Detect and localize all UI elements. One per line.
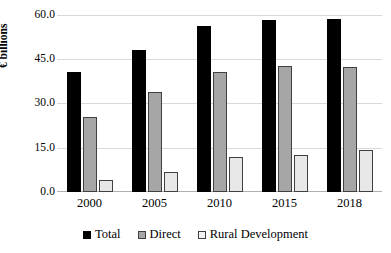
y-axis-tick-60: 60.0 <box>3 9 55 21</box>
bar-rural-2010 <box>229 157 243 192</box>
bar-total-2015 <box>262 20 276 192</box>
chart-legend: Total Direct Rural Development <box>0 227 391 242</box>
legend-item-direct: Direct <box>138 227 181 242</box>
x-axis-tick-2018: 2018 <box>317 196 382 210</box>
y-axis-tick-45: 45.0 <box>3 53 55 65</box>
bar-groups <box>57 15 382 192</box>
bar-rural-2015 <box>294 155 308 192</box>
bar-direct-2005 <box>148 92 162 192</box>
legend-swatch-rural-icon <box>198 231 206 239</box>
legend-label-total: Total <box>95 227 121 242</box>
x-axis-tick-2000: 2000 <box>57 196 122 210</box>
bar-direct-2018 <box>343 67 357 192</box>
bar-direct-2010 <box>213 72 227 192</box>
bar-rural-2000 <box>99 180 113 192</box>
y-axis-tick-30: 30.0 <box>3 97 55 109</box>
legend-item-total: Total <box>83 227 121 242</box>
bar-group-2005 <box>122 15 187 192</box>
legend-label-direct: Direct <box>150 227 181 242</box>
x-axis-tick-2010: 2010 <box>187 196 252 210</box>
x-axis-labels: 2000 2005 2010 2015 2018 <box>57 196 382 210</box>
bar-chart: 75.0 € billions 60.0 45.0 30.0 15.0 0.0 <box>0 0 391 253</box>
bar-direct-2015 <box>278 66 292 192</box>
bar-total-2005 <box>132 50 146 192</box>
bar-group-2000 <box>57 15 122 192</box>
bar-direct-2000 <box>83 117 97 192</box>
bar-rural-2018 <box>359 150 373 192</box>
y-axis-tick-15: 15.0 <box>3 142 55 154</box>
x-axis-tick-2015: 2015 <box>252 196 317 210</box>
x-axis-tick-2005: 2005 <box>122 196 187 210</box>
bar-group-2015 <box>252 15 317 192</box>
bar-rural-2005 <box>164 172 178 192</box>
bar-group-2010 <box>187 15 252 192</box>
bar-total-2018 <box>327 19 341 192</box>
legend-label-rural-development: Rural Development <box>210 227 308 242</box>
bar-total-2010 <box>197 26 211 192</box>
legend-swatch-direct-icon <box>138 231 146 239</box>
legend-item-rural-development: Rural Development <box>198 227 308 242</box>
bar-total-2000 <box>67 72 81 192</box>
y-axis-tick-0: 0.0 <box>3 186 55 198</box>
bar-group-2018 <box>317 15 382 192</box>
legend-swatch-total-icon <box>83 231 91 239</box>
